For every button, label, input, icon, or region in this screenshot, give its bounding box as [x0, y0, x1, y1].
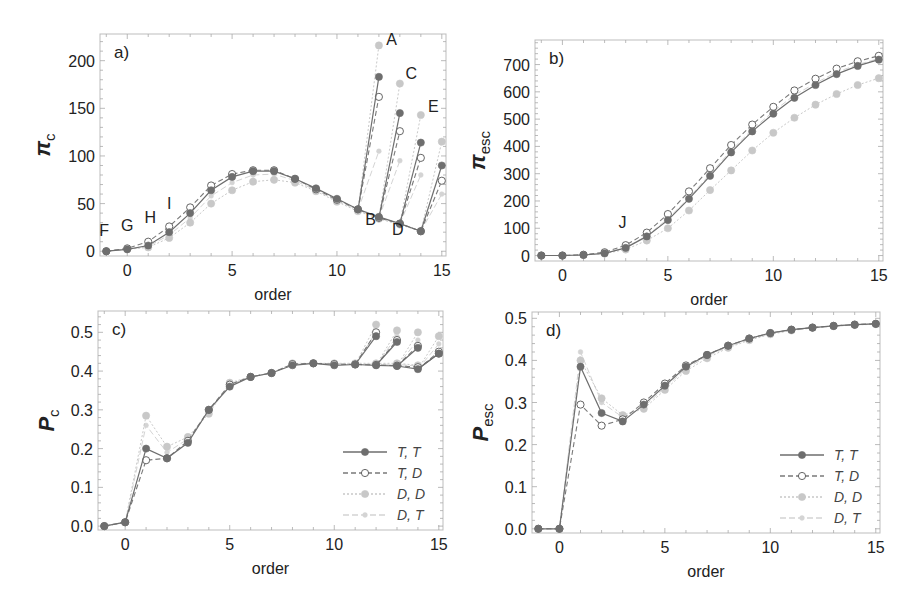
data-point [812, 101, 819, 108]
data-point [352, 361, 359, 368]
data-point [728, 167, 735, 174]
data-point [622, 244, 629, 251]
data-point [556, 525, 563, 532]
data-point [640, 401, 647, 408]
legend-label: T, T [397, 444, 422, 460]
series-DT [102, 330, 441, 529]
legend-label: D, T [397, 507, 425, 523]
data-point [833, 71, 840, 78]
x-tick-label: 0 [558, 267, 567, 284]
x-tick-label: 5 [660, 539, 669, 556]
data-point [289, 362, 296, 369]
data-point [270, 176, 277, 183]
annotation-label: J [619, 214, 627, 231]
data-point [226, 383, 233, 390]
branch-point [435, 333, 442, 340]
data-point [229, 173, 236, 180]
series-TT [538, 56, 883, 259]
data-point [247, 373, 254, 380]
branch-point [417, 139, 424, 146]
x-tick-label: 15 [867, 539, 885, 556]
annotation-label: H [145, 209, 157, 226]
y-tick-label: 0.1 [71, 479, 93, 496]
panel-label: c) [112, 320, 126, 339]
legend-marker [798, 472, 805, 479]
legend-label: T, D [834, 468, 859, 484]
legend-marker [363, 513, 368, 518]
data-point [354, 206, 361, 213]
legend-marker [361, 469, 368, 476]
panel-c-p-c: 0510150.00.10.20.30.40.5orderPcc)T, TT, … [34, 311, 448, 577]
branch-point [372, 333, 379, 340]
data-point [770, 129, 777, 136]
panel-d-p-esc: 0510150.00.10.20.30.40.5orderPescd)T, TT… [468, 310, 885, 580]
data-point [791, 114, 798, 121]
y-axis-label: Pesc [468, 403, 496, 442]
data-point [728, 141, 735, 148]
annotation-label: D [392, 221, 404, 238]
data-point [770, 110, 777, 117]
y-axis-label: πc [30, 133, 58, 157]
y-tick-label: 0.5 [505, 310, 527, 327]
x-tick-label: 5 [228, 262, 237, 279]
x-tick-label: 10 [325, 536, 343, 553]
x-tick-label: 15 [430, 536, 448, 553]
data-point [163, 455, 170, 462]
legend-marker [361, 448, 368, 455]
data-point [291, 175, 298, 182]
branch-point [375, 42, 382, 49]
data-point [770, 103, 777, 110]
data-point [725, 342, 732, 349]
y-tick-label: 0.0 [71, 518, 93, 535]
data-point [208, 187, 215, 194]
legend-marker [361, 490, 368, 497]
data-point [598, 409, 605, 416]
plot-frame [98, 311, 443, 530]
data-point [165, 450, 170, 455]
data-point [685, 195, 692, 202]
annotation-label: B [365, 211, 376, 228]
y-tick-label: 100 [68, 148, 95, 165]
y-tick-label: 300 [503, 166, 530, 183]
panel-b-pi-esc: 0510150100200300400500600700orderπescb)J [465, 40, 888, 308]
y-tick-label: 0.3 [505, 395, 527, 412]
branch-point [393, 327, 400, 334]
y-tick-label: 0.2 [71, 441, 93, 458]
annotation-label: E [428, 98, 439, 115]
data-point [577, 401, 584, 408]
y-tick-label: 0.0 [505, 521, 527, 538]
data-point [875, 56, 882, 63]
data-point [208, 200, 215, 207]
data-point [163, 443, 170, 450]
legend-label: D, T [834, 510, 862, 526]
data-point [205, 406, 212, 413]
data-point [685, 188, 692, 195]
legend-item: T, D [343, 465, 422, 481]
data-point [145, 242, 152, 249]
branch-point [439, 192, 444, 197]
legend-item: D, D [343, 486, 425, 502]
x-tick-label: 15 [870, 267, 888, 284]
x-axis-label: order [690, 291, 728, 308]
data-point [187, 219, 194, 226]
series-TT [101, 333, 443, 530]
data-point [312, 185, 319, 192]
x-tick-label: 10 [761, 539, 779, 556]
data-point [230, 180, 235, 185]
data-point [417, 228, 424, 235]
legend-item: T, D [780, 468, 859, 484]
data-point [103, 248, 110, 255]
branch-point [417, 154, 424, 161]
data-point [166, 229, 173, 236]
x-tick-label: 5 [663, 267, 672, 284]
legend-item: T, T [343, 444, 422, 460]
series-DD [101, 321, 443, 530]
data-point [414, 366, 421, 373]
y-tick-label: 700 [503, 57, 530, 74]
data-point [187, 210, 194, 217]
data-point [872, 320, 879, 327]
data-point [809, 324, 816, 331]
branch-point [438, 162, 445, 169]
legend-marker [798, 451, 805, 458]
branch-point [418, 173, 423, 178]
